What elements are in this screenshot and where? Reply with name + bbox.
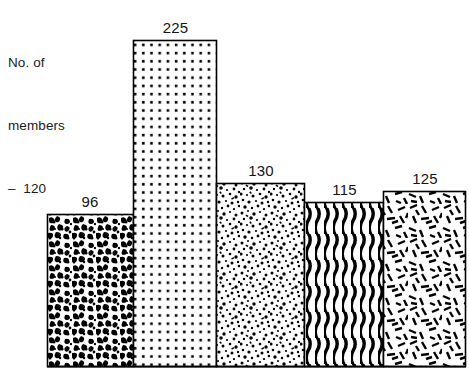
bar-chart: No. of members – 120 96 225 130 115 125 — [0, 0, 469, 378]
bar-5 — [384, 192, 466, 367]
bar-4 — [305, 203, 384, 367]
bar-5-value-label: 125 — [384, 171, 466, 186]
bar-3 — [217, 184, 305, 367]
bar-1-value-label: 96 — [47, 194, 133, 209]
bar-3-value-label: 130 — [217, 163, 305, 178]
bar-3-body — [217, 184, 305, 367]
bar-2-body — [134, 41, 217, 367]
bar-2-value-label: 225 — [134, 20, 217, 35]
y-axis-caption-line-1: No. of — [8, 52, 118, 73]
bar-2 — [134, 41, 217, 367]
bar-5-body — [384, 192, 466, 367]
y-axis-caption-line-2: members — [8, 115, 118, 136]
bar-4-value-label: 115 — [305, 182, 384, 197]
bar-4-body — [305, 203, 384, 367]
